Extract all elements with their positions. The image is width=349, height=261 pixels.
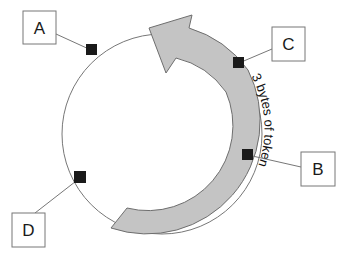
station-c-node[interactable] [233, 57, 244, 68]
station-c-box[interactable]: C [272, 27, 305, 61]
station-d-box[interactable]: D [12, 213, 45, 247]
station-a-box[interactable]: A [23, 11, 56, 44]
station-d-label: D [22, 221, 34, 240]
station-b-node[interactable] [242, 149, 253, 160]
connector-a [56, 34, 91, 50]
station-a-label: A [34, 19, 46, 38]
station-d-node[interactable] [74, 171, 86, 183]
station-b-label: B [312, 160, 323, 179]
token-ring-diagram: 3 bytes of token A C B D [0, 0, 349, 261]
station-a-node[interactable] [86, 44, 97, 55]
connector-d [35, 178, 80, 213]
station-c-label: C [282, 35, 294, 54]
station-b-box[interactable]: B [301, 152, 335, 186]
